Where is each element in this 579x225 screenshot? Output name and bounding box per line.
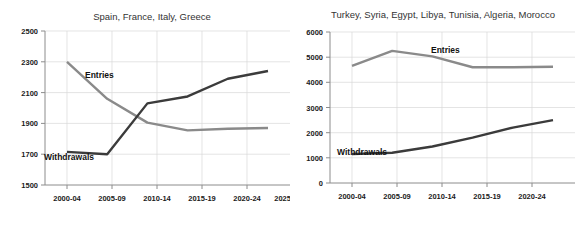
- chart-right-xtick-3: 2015-19: [473, 192, 501, 201]
- chart-figure: Spain, France, Italy, Greece: [0, 0, 579, 225]
- chart-right-title: Turkey, Syria, Egypt, Libya, Tunisia, Al…: [331, 9, 555, 20]
- chart-right-ytick-3000: 3000: [306, 104, 323, 113]
- chart-right-xtick-2: 2010-14: [428, 192, 456, 201]
- chart-left-ytick-1500: 1500: [21, 181, 38, 190]
- chart-left-ytick-1900: 1900: [21, 119, 38, 128]
- chart-left-xtick-1: 2005-09: [98, 194, 126, 203]
- chart-left-svg: Spain, France, Italy, Greece: [0, 0, 290, 225]
- chart-panel-left: Spain, France, Italy, Greece: [0, 0, 290, 225]
- chart-right-xtick-1: 2005-09: [383, 192, 411, 201]
- chart-left-ytick-1700: 1700: [21, 150, 38, 159]
- chart-left-xtick-4: 2020-24: [233, 194, 261, 203]
- chart-right-ytick-0: 0: [319, 179, 323, 188]
- chart-right-ytick-1000: 1000: [306, 154, 323, 163]
- chart-left-title: Spain, France, Italy, Greece: [93, 11, 211, 22]
- chart-right-x-tickmarks: [352, 183, 532, 187]
- chart-left-ytick-2100: 2100: [21, 89, 38, 98]
- chart-left-xtick-5: 2025-29: [274, 194, 290, 203]
- chart-right-svg: Turkey, Syria, Egypt, Libya, Tunisia, Al…: [290, 0, 579, 225]
- chart-right-withdrawals-annotation: Withdrawals: [337, 147, 387, 157]
- chart-left-ytick-2500: 2500: [21, 27, 38, 36]
- chart-right-entries-annotation: Entries: [431, 45, 460, 55]
- chart-left-ytick-2300: 2300: [21, 58, 38, 67]
- chart-right-ytick-4000: 4000: [306, 78, 323, 87]
- chart-left-xtick-3: 2015-19: [188, 194, 216, 203]
- chart-left-x-tickmarks: [67, 185, 247, 189]
- chart-left-xtick-0: 2000-04: [53, 194, 81, 203]
- chart-right-xtick-0: 2000-04: [338, 192, 366, 201]
- chart-right-ytick-5000: 5000: [306, 53, 323, 62]
- chart-right-ytick-6000: 6000: [306, 28, 323, 37]
- chart-left-series-withdrawals: [67, 71, 268, 154]
- chart-right-xtick-4: 2020-24: [518, 192, 546, 201]
- chart-right-y-tickmarks: [326, 32, 330, 183]
- chart-left-withdrawals-annotation: Withdrawals: [44, 152, 94, 162]
- chart-left-entries-annotation: Entries: [85, 70, 114, 80]
- chart-panel-right: Turkey, Syria, Egypt, Libya, Tunisia, Al…: [290, 0, 579, 225]
- chart-right-ytick-2000: 2000: [306, 129, 323, 138]
- chart-left-xtick-2: 2010-14: [143, 194, 171, 203]
